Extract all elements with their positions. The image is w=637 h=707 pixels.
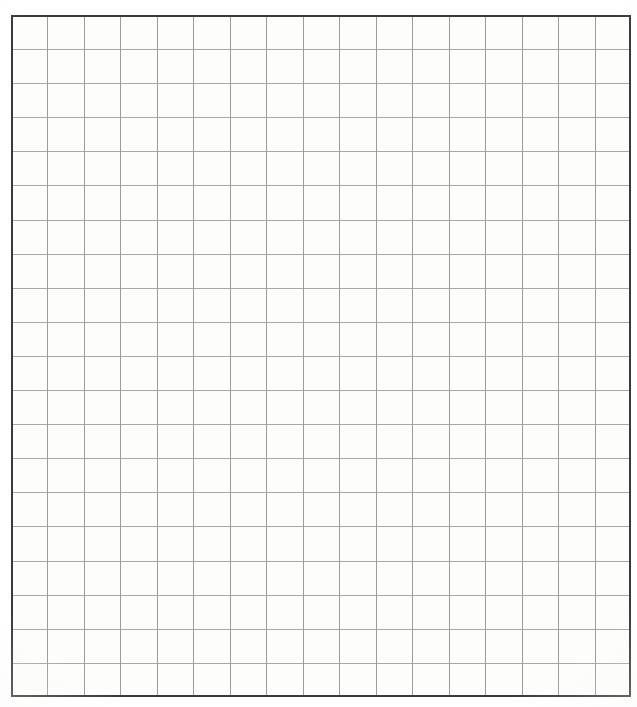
grid-paper-page — [0, 0, 637, 707]
grid-block — [11, 15, 631, 697]
grid-lines — [11, 15, 631, 697]
